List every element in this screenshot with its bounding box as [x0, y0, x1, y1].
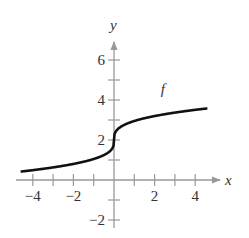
y-tick-label: −2 — [89, 212, 105, 228]
y-tick-label: 4 — [98, 92, 106, 108]
function-graph: −4−224 −2246 x y f — [0, 0, 249, 238]
y-tick-label: 2 — [98, 132, 106, 148]
x-tick-label: 2 — [151, 188, 159, 204]
y-tick-label: 6 — [98, 52, 106, 68]
y-axis-label: y — [108, 17, 117, 33]
curve-label-f: f — [161, 81, 167, 97]
x-tick-labels: −4−224 — [25, 188, 200, 204]
x-axis-label: x — [224, 172, 232, 188]
x-tick-label: 4 — [191, 188, 199, 204]
x-tick-label: −2 — [65, 188, 81, 204]
x-tick-label: −4 — [25, 188, 41, 204]
y-tick-labels: −2246 — [89, 52, 105, 228]
